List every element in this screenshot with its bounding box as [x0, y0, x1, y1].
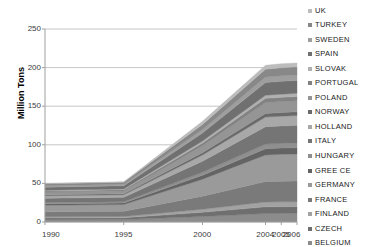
legend-swatch-icon — [308, 110, 312, 114]
x-axis-tick-label: 2000 — [193, 231, 211, 239]
legend-item-uk[interactable]: UK — [308, 3, 326, 18]
legend-item-portugal[interactable]: PORTUGAL — [308, 76, 359, 91]
legend-item-label: ITALY — [315, 137, 336, 145]
legend-swatch-icon — [308, 125, 312, 129]
legend-item-label: TURKEY — [315, 21, 347, 29]
legend-item-label: SLOVAK — [315, 65, 346, 73]
legend-swatch-icon — [308, 38, 312, 42]
legend-item-label: SWEDEN — [315, 36, 350, 44]
legend-item-spain[interactable]: SPAIN — [308, 47, 338, 62]
legend-item-label: GREE CE — [315, 167, 351, 175]
legend-swatch-icon — [308, 169, 312, 173]
legend-item-finland[interactable]: FINLAND — [308, 207, 349, 222]
legend-item-italy[interactable]: ITALY — [308, 134, 336, 149]
legend-item-norway[interactable]: NORWAY — [308, 105, 350, 120]
legend-swatch-icon — [308, 67, 312, 71]
legend-item-holland[interactable]: HOLLAND — [308, 119, 353, 134]
legend-item-label: FINLAND — [315, 210, 349, 218]
legend-item-poland[interactable]: POLAND — [308, 90, 348, 105]
stacked-area-chart: Million Tons 050100150200250 19901995200… — [0, 0, 384, 247]
legend-item-france[interactable]: FRANCE — [308, 192, 348, 207]
legend-item-slovak[interactable]: SLOVAK — [308, 61, 346, 76]
legend-swatch-icon — [308, 52, 312, 56]
legend-item-label: SPAIN — [315, 50, 338, 58]
legend-item-label: BELGIUM — [315, 239, 351, 247]
legend-swatch-icon — [308, 81, 312, 85]
legend-item-germany[interactable]: GERMANY — [308, 178, 355, 193]
legend-item-sweden[interactable]: SWEDEN — [308, 32, 350, 47]
legend-item-label: GERMANY — [315, 181, 355, 189]
legend-swatch-icon — [308, 241, 312, 245]
legend-item-label: HUNGARY — [315, 152, 354, 160]
x-axis-tick-label: 1990 — [42, 231, 60, 239]
legend-item-belgium[interactable]: BELGIUM — [308, 236, 351, 247]
legend-swatch-icon — [308, 227, 312, 231]
legend-item-turkey[interactable]: TURKEY — [308, 18, 347, 33]
legend-item-gree-ce[interactable]: GREE CE — [308, 163, 351, 178]
legend-item-label: PORTUGAL — [315, 79, 359, 87]
legend-item-label: FRANCE — [315, 196, 348, 204]
legend-swatch-icon — [308, 212, 312, 216]
legend-item-label: HOLLAND — [315, 123, 353, 131]
legend-item-hungary[interactable]: HUNGARY — [308, 149, 354, 164]
legend-swatch-icon — [308, 9, 312, 13]
legend-item-czech[interactable]: CZECH — [308, 221, 342, 236]
legend-swatch-icon — [308, 23, 312, 27]
legend-swatch-icon — [308, 198, 312, 202]
legend-swatch-icon — [308, 139, 312, 143]
legend-swatch-icon — [308, 183, 312, 187]
legend-swatch-icon — [308, 96, 312, 100]
x-axis-tick-label: 2006 — [283, 231, 301, 239]
x-axis-tick-label: 1995 — [115, 231, 133, 239]
legend-item-label: NORWAY — [315, 108, 350, 116]
legend-item-label: CZECH — [315, 225, 342, 233]
legend-item-label: POLAND — [315, 94, 348, 102]
legend-swatch-icon — [308, 154, 312, 158]
chart-legend: UKTURKEYSWEDENSPAINSLOVAKPORTUGALPOLANDN… — [308, 3, 384, 245]
legend-item-label: UK — [315, 7, 326, 15]
